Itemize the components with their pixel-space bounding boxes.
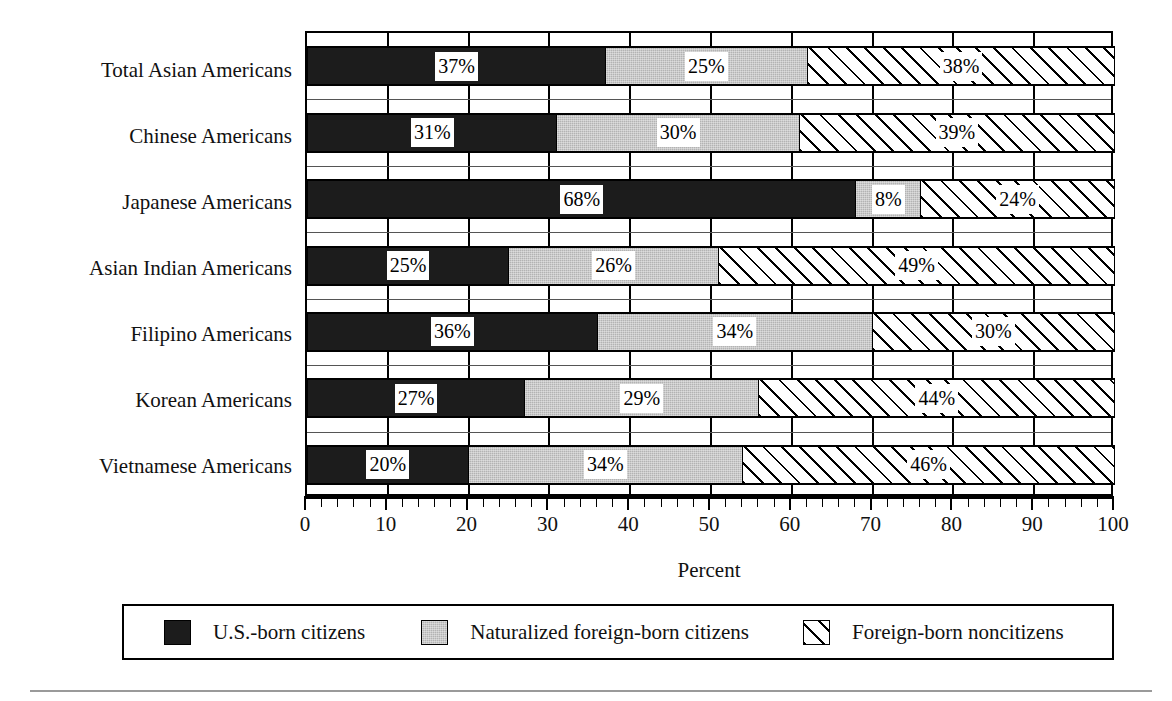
x-tick-minor: [822, 499, 823, 507]
horizontal-gridline-1: [307, 99, 1111, 100]
category-label-korean-americans: Korean Americans: [0, 390, 292, 411]
bar-row: 36%34%30%: [307, 312, 1111, 352]
black-swatch-icon: [164, 620, 191, 645]
x-tick-minor: [564, 499, 565, 507]
x-tick-minor: [1016, 499, 1017, 507]
x-tick-minor: [984, 499, 985, 507]
legend-item-us-born-citizens: U.S.-born citizens: [164, 620, 365, 645]
x-tick-label-50: 50: [679, 514, 739, 535]
x-tick-minor: [854, 499, 855, 507]
bar-value-label: 34%: [713, 317, 756, 346]
x-tick-major-100: [1112, 496, 1114, 510]
stacked-bar-chart-figure: Total Asian Americans Chinese Americans …: [0, 0, 1172, 701]
bar-segment: 25%: [307, 246, 509, 286]
x-tick-minor: [838, 499, 839, 507]
x-tick-minor: [741, 499, 742, 507]
x-tick-label-100: 100: [1083, 514, 1143, 535]
bar-value-label: 46%: [907, 450, 950, 479]
bar-segment: 30%: [873, 312, 1115, 352]
bar-value-label: 29%: [620, 384, 663, 413]
category-label-filipino-americans: Filipino Americans: [0, 324, 292, 345]
x-tick-minor: [353, 499, 354, 507]
bar-row: 20%34%46%: [307, 445, 1111, 485]
bar-value-label: 25%: [685, 52, 728, 81]
x-tick-label-20: 20: [437, 514, 497, 535]
bar-row: 37%25%38%: [307, 46, 1111, 86]
legend-label-us-born-citizens: U.S.-born citizens: [213, 622, 365, 643]
bar-segment: 29%: [525, 378, 759, 418]
bar-segment: 44%: [759, 378, 1115, 418]
x-tick-major-10: [385, 496, 387, 510]
horizontal-gridline-6: [307, 432, 1111, 433]
horizontal-gridline-3: [307, 232, 1111, 233]
bar-row: 27%29%44%: [307, 378, 1111, 418]
bar-segment: 8%: [856, 179, 921, 219]
x-tick-minor: [483, 499, 484, 507]
x-tick-label-0: 0: [275, 514, 335, 535]
bar-value-label: 49%: [895, 251, 938, 280]
bar-segment: 30%: [557, 113, 799, 153]
x-tick-minor: [757, 499, 758, 507]
x-tick-minor: [612, 499, 613, 507]
x-axis-title: Percent: [305, 558, 1113, 583]
plot-area: 37%25%38%31%30%39%68%8%24%25%26%49%36%34…: [305, 31, 1113, 496]
x-tick-label-90: 90: [1002, 514, 1062, 535]
x-tick-minor: [337, 499, 338, 507]
x-tick-major-30: [546, 496, 548, 510]
bar-segment: 24%: [921, 179, 1115, 219]
x-tick-label-30: 30: [517, 514, 577, 535]
x-tick-minor: [515, 499, 516, 507]
bar-segment: 36%: [307, 312, 598, 352]
bar-value-label: 38%: [940, 52, 983, 81]
x-tick-major-20: [466, 496, 468, 510]
x-tick-minor: [499, 499, 500, 507]
bar-value-label: 24%: [996, 185, 1039, 214]
x-tick-minor: [968, 499, 969, 507]
bar-value-label: 30%: [972, 317, 1015, 346]
x-tick-minor: [434, 499, 435, 507]
legend-item-naturalized-foreign-born-citizens: Naturalized foreign-born citizens: [421, 620, 749, 645]
x-tick-label-40: 40: [598, 514, 658, 535]
bar-segment: 27%: [307, 378, 525, 418]
chart-legend: U.S.-born citizens Naturalized foreign-b…: [122, 604, 1114, 660]
category-label-chinese-americans: Chinese Americans: [0, 126, 292, 147]
x-tick-minor: [531, 499, 532, 507]
bar-value-label: 31%: [411, 118, 454, 147]
bar-row: 68%8%24%: [307, 179, 1111, 219]
bar-value-label: 25%: [387, 251, 430, 280]
x-tick-minor: [725, 499, 726, 507]
bar-segment: 46%: [743, 445, 1115, 485]
x-tick-minor: [806, 499, 807, 507]
bar-segment: 37%: [307, 46, 606, 86]
x-tick-label-80: 80: [921, 514, 981, 535]
x-tick-minor: [1000, 499, 1001, 507]
x-tick-label-10: 10: [356, 514, 416, 535]
x-tick-minor: [1097, 499, 1098, 507]
bar-value-label: 8%: [872, 185, 905, 214]
bar-segment: 26%: [509, 246, 719, 286]
page-rule-divider: [30, 690, 1152, 692]
bar-value-label: 30%: [657, 118, 700, 147]
x-tick-minor: [321, 499, 322, 507]
x-tick-major-70: [870, 496, 872, 510]
x-tick-minor: [661, 499, 662, 507]
x-tick-minor: [919, 499, 920, 507]
x-tick-minor: [935, 499, 936, 507]
x-tick-major-90: [1031, 496, 1033, 510]
x-tick-label-70: 70: [841, 514, 901, 535]
x-tick-minor: [903, 499, 904, 507]
x-tick-minor: [580, 499, 581, 507]
legend-item-foreign-born-noncitizens: Foreign-born noncitizens: [803, 620, 1064, 645]
x-tick-minor: [693, 499, 694, 507]
bar-value-label: 36%: [431, 317, 474, 346]
bar-segment: 68%: [307, 179, 856, 219]
bar-value-label: 37%: [435, 52, 478, 81]
bar-value-label: 26%: [592, 251, 635, 280]
x-tick-major-40: [627, 496, 629, 510]
x-tick-label-60: 60: [760, 514, 820, 535]
horizontal-gridline-5: [307, 365, 1111, 366]
x-tick-minor: [450, 499, 451, 507]
x-tick-major-50: [708, 496, 710, 510]
x-tick-major-60: [789, 496, 791, 510]
bar-row: 25%26%49%: [307, 246, 1111, 286]
